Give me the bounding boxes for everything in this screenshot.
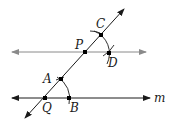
- arc-tick-c: [90, 31, 100, 33]
- label-b: B: [69, 101, 79, 115]
- label-m: m: [154, 91, 165, 105]
- label-d: D: [107, 56, 118, 70]
- label-q: Q: [42, 101, 52, 115]
- point-a: [59, 77, 63, 81]
- point-c: [99, 33, 103, 37]
- point-p: [83, 50, 87, 54]
- point-d: [107, 51, 111, 55]
- point-b: [67, 96, 71, 100]
- label-p: P: [74, 38, 84, 52]
- label-c: C: [96, 17, 105, 31]
- construction-diagram: C P D A Q B m: [0, 0, 170, 127]
- point-q: [43, 96, 47, 100]
- label-a: A: [42, 72, 52, 86]
